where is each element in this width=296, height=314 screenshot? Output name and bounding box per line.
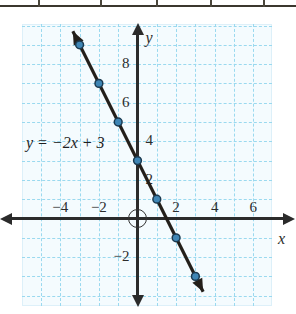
data-point	[76, 41, 84, 49]
data-point	[153, 195, 161, 203]
data-point	[134, 157, 142, 165]
data-point	[172, 234, 180, 242]
line-graph-layer	[0, 0, 296, 314]
data-point	[192, 273, 200, 281]
equation-label: y = −2x + 3	[26, 135, 105, 151]
figure-canvas: xy−4−22468642−2 y = −2x + 3	[0, 0, 296, 314]
data-point	[95, 80, 103, 88]
data-point	[114, 118, 122, 126]
